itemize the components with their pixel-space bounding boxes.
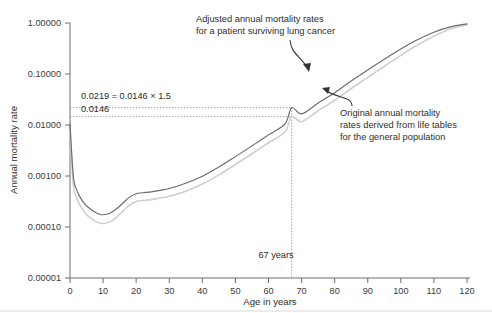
y-tick-label: 0.00100	[28, 171, 61, 181]
y-axis-ticks: 1.000000.100000.010000.001000.000100.000…	[28, 18, 70, 283]
age-marker-label: 67 years	[258, 250, 294, 260]
x-tick-label: 40	[197, 286, 207, 296]
x-tick-label: 100	[393, 286, 408, 296]
ratio-value-label: 0.0219 = 0.0146 × 1.5	[81, 91, 171, 101]
x-axis-title: Age in years	[243, 296, 297, 307]
adjusted-annotation-line2: for a patient surviving lung cancer	[196, 26, 335, 36]
x-tick-label: 80	[330, 286, 340, 296]
y-tick-label: 0.00010	[28, 222, 61, 232]
x-tick-label: 120	[459, 286, 474, 296]
y-tick-label: 1.00000	[28, 18, 61, 28]
x-tick-label: 60	[263, 286, 273, 296]
adjusted-curve-annotation: Adjusted annual mortality rates for a pa…	[196, 14, 335, 72]
x-axis-ticks: 0102030405060708090100110120	[67, 278, 474, 296]
original-annotation-line1: Original annual mortality	[340, 108, 441, 118]
adjusted-annotation-leader	[290, 40, 307, 67]
y-tick-label: 0.01000	[28, 120, 61, 130]
x-tick-label: 50	[230, 286, 240, 296]
baseline-value-label: 0.0146	[81, 104, 109, 114]
original-annotation-line3: for the general population	[340, 132, 445, 142]
x-tick-label: 110	[427, 286, 442, 296]
mortality-rate-log-chart: 1.000000.100000.010000.001000.000100.000…	[0, 0, 492, 313]
adjusted-annotation-arrowhead	[303, 63, 311, 72]
x-tick-label: 20	[131, 286, 141, 296]
x-tick-label: 30	[164, 286, 174, 296]
y-tick-label: 0.00001	[28, 273, 61, 283]
x-tick-label: 10	[98, 286, 108, 296]
chart-axes	[70, 23, 470, 278]
original-annotation-line2: rates derived from life tables	[340, 120, 457, 130]
x-tick-label: 90	[363, 286, 373, 296]
original-annotation-arrowhead	[322, 87, 330, 94]
x-tick-label: 70	[296, 286, 306, 296]
x-tick-label: 0	[67, 286, 72, 296]
y-tick-label: 0.10000	[28, 69, 61, 79]
y-axis-title: Annual mortality rate	[8, 106, 19, 194]
adjusted-annotation-line1: Adjusted annual mortality rates	[196, 14, 324, 24]
figure-container: 1.000000.100000.010000.001000.000100.000…	[0, 0, 492, 313]
